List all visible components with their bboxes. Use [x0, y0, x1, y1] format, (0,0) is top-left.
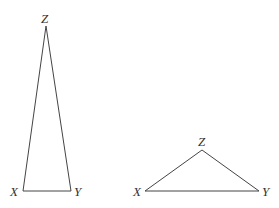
- tall-triangle: Z X Y: [9, 11, 83, 199]
- diagram-canvas: Z X Y Z X Y: [0, 0, 279, 208]
- vertex-label-x: X: [9, 184, 19, 199]
- vertex-label-z: Z: [198, 134, 206, 149]
- tall-triangle-shape: [23, 26, 71, 191]
- wide-triangle: Z X Y: [132, 134, 271, 199]
- vertex-label-z: Z: [41, 11, 49, 26]
- vertex-label-y: Y: [74, 184, 83, 199]
- vertex-label-x: X: [132, 184, 142, 199]
- wide-triangle-shape: [145, 150, 259, 191]
- vertex-label-y: Y: [262, 184, 271, 199]
